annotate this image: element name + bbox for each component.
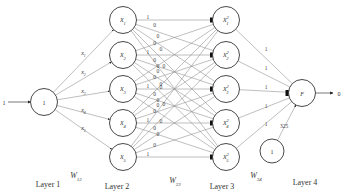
weight-label: 0 bbox=[162, 63, 165, 69]
w23-label: W23 bbox=[169, 176, 181, 187]
edge bbox=[236, 29, 293, 83]
edge-label-x4: x4 bbox=[80, 107, 86, 115]
weight-label: 1 bbox=[147, 117, 150, 123]
weight-label: 0 bbox=[159, 118, 162, 124]
w34-label: W34 bbox=[250, 171, 262, 182]
weight-label: 0 bbox=[162, 101, 165, 107]
weight-label: 0 bbox=[156, 33, 159, 39]
weight-label: 0 bbox=[156, 131, 159, 137]
weight-label: 0 bbox=[153, 57, 156, 63]
layer-title-4: Layer 4 bbox=[293, 178, 318, 187]
weight-label: 0 bbox=[153, 74, 156, 80]
edge-label-f: 1 bbox=[265, 84, 268, 90]
edge-label-x2: x2 bbox=[80, 69, 86, 77]
nodes: 1x1x2x3x4x5x21x22x23x24x25F1 bbox=[31, 7, 316, 171]
edge-label-f: 1 bbox=[265, 46, 268, 52]
weight-label: 1 bbox=[147, 151, 150, 157]
weight-label: 0 bbox=[153, 91, 156, 97]
weight-label: 0 bbox=[159, 84, 162, 90]
edge-label-f: 1 bbox=[265, 121, 268, 127]
weight-label: 0 bbox=[156, 63, 159, 69]
neural-network-diagram: 1x1x2x3x4x5x21x22x23x24x25F1 1x1x2x3x4x5… bbox=[0, 0, 344, 195]
weight-label: 0 bbox=[159, 46, 162, 52]
edge-label-x3: x3 bbox=[80, 88, 86, 96]
layer-title-1: Layer 1 bbox=[36, 180, 61, 189]
weight-label: 0 bbox=[153, 22, 156, 28]
edges bbox=[8, 18, 333, 160]
weight-label: 0 bbox=[153, 40, 156, 46]
weight-label: 0 bbox=[153, 108, 156, 114]
layer1-node-label: 1 bbox=[43, 100, 46, 106]
bias-node-label: 1 bbox=[271, 149, 274, 155]
edge-label-x1: x1 bbox=[80, 50, 86, 58]
weight-label: 0 bbox=[153, 125, 156, 131]
edge bbox=[239, 90, 288, 93]
weight-label: 1 bbox=[147, 49, 150, 55]
weight-label: 1 bbox=[147, 83, 150, 89]
edge-label-f: 1 bbox=[265, 65, 268, 71]
input-value: 1 bbox=[3, 100, 6, 106]
output-value: 0 bbox=[338, 91, 341, 97]
edge-label-x5: x5 bbox=[80, 125, 86, 133]
edge-label-f: 1 bbox=[265, 103, 268, 109]
layer-title-3: Layer 3 bbox=[210, 182, 235, 191]
weight-label: 0 bbox=[153, 142, 156, 148]
w12-label: W12 bbox=[70, 171, 82, 182]
output-node-label: F bbox=[299, 91, 304, 97]
bias-weight: 325 bbox=[280, 123, 289, 129]
weight-label: 0 bbox=[156, 97, 159, 103]
edge bbox=[53, 30, 113, 93]
weight-label: 1 bbox=[147, 14, 150, 20]
layer-title-2: Layer 2 bbox=[105, 182, 130, 191]
